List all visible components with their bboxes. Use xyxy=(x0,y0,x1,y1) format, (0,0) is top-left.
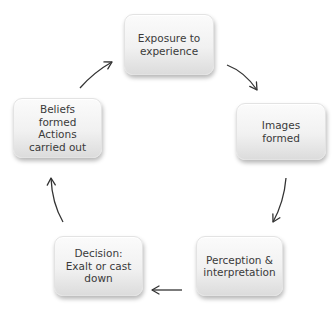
arrow-exposure-to-images xyxy=(227,65,257,90)
node-decision: Decision: Exalt or cast down xyxy=(54,236,143,296)
arrow-decision-to-beliefs xyxy=(51,178,63,222)
node-images-formed: Images formed xyxy=(236,103,326,160)
node-label: Beliefs formed Actions carried out xyxy=(29,103,86,153)
node-label: Images formed xyxy=(262,119,300,144)
node-perception-interpretation: Perception & interpretation xyxy=(196,236,283,296)
arrow-beliefs-to-exposure xyxy=(80,62,112,88)
node-exposure-to-experience: Exposure to experience xyxy=(124,14,214,75)
node-beliefs-actions: Beliefs formed Actions carried out xyxy=(13,98,102,158)
node-label: Perception & interpretation xyxy=(203,254,275,279)
node-label: Exposure to experience xyxy=(138,32,201,57)
arrow-images-to-perception xyxy=(273,178,286,222)
node-label: Decision: Exalt or cast down xyxy=(66,247,132,285)
